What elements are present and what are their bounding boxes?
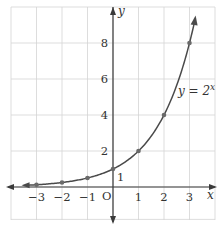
data-point	[34, 182, 39, 187]
exponential-curve	[28, 22, 195, 186]
y-axis-label: y	[117, 4, 125, 18]
curve-arrow-up	[191, 16, 198, 26]
x-tick-label: −1	[79, 190, 96, 204]
y-tick-label: 4	[101, 108, 108, 122]
x-axis-arrow-left	[6, 184, 14, 190]
y-intercept-label: 1	[117, 170, 124, 184]
origin-label: O	[102, 189, 111, 203]
y-tick-label: 2	[101, 144, 108, 158]
x-axis-label: x	[207, 188, 214, 202]
y-axis-arrow-up	[110, 7, 116, 15]
exponential-chart: y x O −3−2−11232468 1 y = 2x	[0, 0, 222, 228]
y-tick-label: 6	[101, 72, 108, 86]
x-tick-label: −2	[54, 190, 71, 204]
data-point	[162, 113, 167, 118]
data-point	[111, 167, 116, 172]
curve-label-base: y = 2	[177, 84, 210, 98]
curve-label: y = 2x	[177, 82, 215, 98]
y-axis-arrow-down	[110, 216, 116, 224]
data-point	[60, 180, 65, 185]
data-point	[136, 149, 141, 154]
x-tick-label: −3	[28, 190, 45, 204]
x-tick-label: 2	[160, 190, 167, 204]
data-point	[187, 41, 192, 46]
x-tick-label: 1	[135, 190, 142, 204]
data-point	[85, 176, 90, 181]
x-tick-label: 3	[186, 190, 193, 204]
y-tick-label: 8	[101, 36, 108, 50]
curve-label-exponent: x	[210, 82, 215, 92]
tick-labels: −3−2−11232468	[28, 36, 193, 204]
